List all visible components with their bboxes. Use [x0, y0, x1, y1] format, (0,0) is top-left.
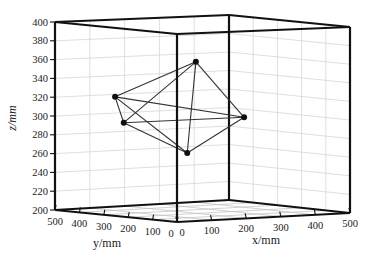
x-tick-label-300: 300: [273, 222, 289, 233]
grid-line-back-left-horizontal: [55, 34, 229, 41]
grid-line-back-right-horizontal: [229, 126, 350, 139]
grid-line-back-left-horizontal: [55, 108, 229, 117]
z-tick-label-360: 360: [32, 54, 48, 65]
z-tick-label-320: 320: [32, 92, 48, 103]
graph-edge-P4-P5: [187, 117, 244, 153]
graph-edge-P1-P2: [115, 62, 196, 97]
box-edge-top-front-right: [177, 27, 350, 34]
grid-line-back-right-horizontal: [229, 89, 350, 101]
grid-line-back-right-horizontal: [229, 52, 350, 64]
graph-node-P1: [193, 59, 199, 65]
z-axis-label: z/mm: [5, 105, 19, 132]
tick-marks: [50, 22, 350, 222]
grid-line-back-right-horizontal: [229, 71, 350, 83]
y-tick-label-0: 0: [168, 228, 173, 239]
graph-node-P5: [184, 150, 190, 156]
y-tick-label-300: 300: [96, 221, 112, 232]
z-tick-label-220: 220: [32, 186, 48, 197]
z-tick-label-300: 300: [32, 111, 48, 122]
z-tick-label-380: 380: [32, 35, 48, 46]
x-tick-label-100: 100: [204, 225, 220, 236]
grid-line-back-left-horizontal: [55, 89, 229, 97]
z-tick-label-200: 200: [32, 205, 48, 216]
box-edge-floor-front-right: [177, 213, 350, 222]
z-tick-label-280: 280: [32, 129, 48, 140]
box-edge-top-front-left: [55, 22, 177, 34]
grid-line-back-right-horizontal: [229, 182, 350, 195]
y-axis-label: y/mm: [93, 236, 122, 250]
x-axis-label: x/mm: [252, 233, 281, 247]
graph-node-P3: [121, 120, 127, 126]
graph-node-P4: [241, 114, 247, 120]
grid-line-back-left-horizontal: [55, 145, 229, 154]
grid-line-back-left-horizontal: [55, 182, 229, 192]
z-tick-label-340: 340: [32, 73, 48, 84]
grid-line-back-right-horizontal: [229, 34, 350, 46]
x-tick-label-0: 0: [179, 227, 184, 238]
box-edge-top-back-right: [229, 15, 350, 27]
grid-line-back-right-horizontal: [229, 145, 350, 158]
grid-line-back-right-horizontal: [229, 108, 350, 121]
x-tick-label-400: 400: [308, 220, 324, 231]
grid-line-back-right-horizontal: [229, 163, 350, 176]
grid-line-back-left-horizontal: [55, 52, 229, 60]
y-tick-label-100: 100: [145, 226, 161, 237]
grid-layer: [55, 16, 350, 220]
grid-line-back-left-horizontal: [55, 163, 229, 172]
graph-node-P2: [112, 94, 118, 100]
box-edge-top-back-left: [55, 15, 229, 22]
grid-line-back-left-horizontal: [55, 126, 229, 135]
chart-3d: 4003803603403203002802602402202005004003…: [0, 0, 374, 258]
x-tick-label-500: 500: [342, 218, 358, 229]
z-tick-label-400: 400: [32, 17, 48, 28]
graph-edge-P1-P3: [124, 62, 196, 123]
y-tick-label-200: 200: [120, 223, 136, 234]
y-tick-label-400: 400: [72, 218, 88, 229]
grid-line-back-left-horizontal: [55, 71, 229, 79]
z-tick-label-260: 260: [32, 148, 48, 159]
box-front-edges: [55, 22, 350, 222]
z-tick-label-240: 240: [32, 167, 48, 178]
y-tick-label-500: 500: [47, 216, 63, 227]
